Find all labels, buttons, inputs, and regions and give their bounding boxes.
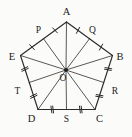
radius-oc	[66, 70, 95, 110]
tick-br	[105, 68, 112, 69]
radius-oa	[66, 22, 67, 70]
center-point-label: O	[60, 73, 67, 83]
radius-or	[66, 70, 104, 83]
pentagon-diagram: ABCDEQRSTPO	[0, 0, 132, 137]
radius-oq	[66, 39, 90, 70]
geometry-figure: ABCDEQRSTPO	[0, 0, 132, 137]
tick-cs	[79, 106, 80, 113]
tick-sd	[51, 106, 52, 113]
center-point	[64, 68, 68, 72]
radius-op	[44, 39, 67, 70]
tick-cs	[81, 106, 82, 113]
vertex-a-label: A	[63, 6, 71, 17]
midpoint-s-label: S	[64, 114, 69, 124]
midpoint-r-label: R	[112, 86, 119, 96]
vertex-e-label: E	[9, 51, 15, 62]
center-dot-group	[64, 68, 68, 72]
midpoint-q-label: Q	[89, 25, 96, 35]
tick-sd	[53, 106, 54, 113]
tick-br	[104, 69, 111, 70]
side-ea	[21, 22, 67, 56]
vertex-c-label: C	[96, 113, 103, 124]
midpoint-t-label: T	[15, 86, 21, 96]
side-de	[21, 56, 39, 110]
radius-oe	[21, 56, 67, 71]
vertex-b-label: B	[116, 51, 123, 62]
tick-qb	[99, 44, 102, 50]
midpoint-p-label: P	[36, 25, 41, 35]
tick-rc	[96, 96, 103, 97]
side-bc	[95, 56, 113, 110]
vertex-d-label: D	[28, 113, 36, 124]
tick-aq	[76, 27, 79, 33]
tick-rc	[96, 95, 103, 96]
